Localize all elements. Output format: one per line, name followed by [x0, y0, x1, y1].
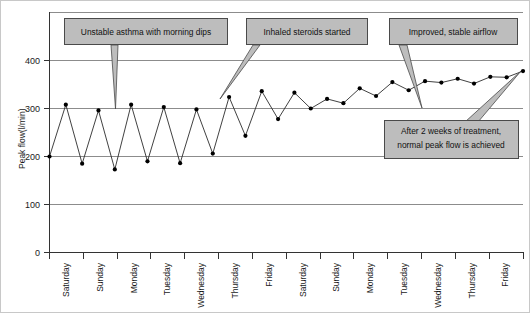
x-tick-label-monday-1: Monday [129, 262, 139, 293]
annotation-unstable-asthma-pointer [111, 45, 118, 109]
y-tick-labels: 400 300 200 100 0 [25, 56, 40, 258]
x-tick-labels: Saturday Sunday Monday Tuesday Wednesday… [61, 262, 510, 307]
data-point [227, 95, 231, 99]
peak-flow-chart-figure: 400 300 200 100 0 Peak flow(l/min) [0, 0, 530, 313]
x-tick-label-saturday-2: Saturday [298, 262, 308, 297]
annotation-unstable-asthma[interactable]: Unstable asthma with morning dips [65, 19, 228, 110]
y-tick-label-200: 200 [25, 152, 40, 162]
data-point [64, 103, 68, 107]
data-point [505, 75, 509, 79]
data-point [439, 80, 443, 84]
data-point [292, 91, 296, 95]
x-tick-label-wednesday-2: Wednesday [433, 262, 443, 307]
data-point [113, 167, 117, 171]
x-tick-label-monday-2: Monday [365, 262, 375, 293]
data-point [129, 103, 133, 107]
y-tick-label-0: 0 [35, 248, 40, 258]
annotation-normal-peak-flow-pointer [465, 71, 521, 122]
annotation-improved-airflow-text: Improved, stable airflow [409, 27, 498, 37]
x-tick-label-tuesday-2: Tuesday [399, 262, 409, 295]
data-point [260, 89, 264, 93]
annotation-inhaled-steroids[interactable]: Inhaled steroids started [220, 19, 368, 100]
data-point [456, 77, 460, 81]
data-point [472, 81, 476, 85]
data-point [390, 80, 394, 84]
x-tick-label-sunday-2: Sunday [331, 262, 341, 292]
data-point [407, 88, 411, 92]
annotation-normal-peak-flow-text-line-2: normal peak flow is achieved [397, 140, 505, 150]
x-tick-label-friday-2: Friday [500, 262, 510, 286]
x-tick-label-thursday-2: Thursday [467, 262, 477, 298]
x-tick-label-wednesday-1: Wednesday [196, 262, 206, 307]
data-point [488, 75, 492, 79]
data-point [162, 105, 166, 109]
x-tick-label-saturday-1: Saturday [61, 262, 71, 297]
data-point [80, 162, 84, 166]
annotation-unstable-asthma-text: Unstable asthma with morning dips [81, 27, 211, 37]
annotation-normal-peak-flow-text-line-1: After 2 weeks of treatment, [401, 126, 501, 136]
x-tick-label-sunday-1: Sunday [95, 262, 105, 292]
data-point [211, 152, 215, 156]
y-tick-label-100: 100 [25, 200, 40, 210]
data-point [374, 94, 378, 98]
data-point [358, 86, 362, 90]
annotation-inhaled-steroids-text: Inhaled steroids started [263, 27, 350, 37]
data-point [309, 106, 313, 110]
y-tick-label-400: 400 [25, 56, 40, 66]
y-tick-label-300: 300 [25, 104, 40, 114]
data-point [194, 107, 198, 111]
data-point [521, 69, 525, 73]
data-point [178, 161, 182, 165]
y-axis-title: Peak flow(l/min) [17, 108, 27, 169]
annotation-inhaled-steroids-pointer [220, 45, 260, 99]
data-point [341, 101, 345, 105]
data-point [96, 108, 100, 112]
annotation-normal-peak-flow[interactable]: After 2 weeks of treatment, normal peak … [385, 71, 522, 159]
data-point [145, 159, 149, 163]
data-point [243, 134, 247, 138]
data-point [47, 154, 51, 158]
data-point [423, 79, 427, 83]
data-point [325, 97, 329, 101]
x-tick-label-thursday-1: Thursday [230, 262, 240, 298]
x-tick-label-tuesday-1: Tuesday [162, 262, 172, 295]
x-tick-label-friday-1: Friday [264, 262, 274, 286]
data-point [276, 117, 280, 121]
annotation-improved-airflow-pointer [399, 45, 422, 108]
chart-canvas: 400 300 200 100 0 Peak flow(l/min) [1, 1, 530, 313]
